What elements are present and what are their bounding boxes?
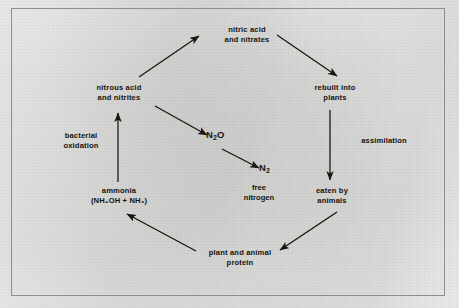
arrow-protein-to-ammonia [127, 214, 196, 251]
node-plant-and-animal-protein: plant and animal protein [189, 248, 291, 269]
node-protein-line2: protein [189, 258, 291, 268]
node-nitric-line2: and nitrates [205, 35, 289, 45]
caption-free-nitrogen-line1: free [226, 183, 292, 193]
species-dinitrogen: N2 [259, 162, 270, 173]
node-ammonia-line1: ammonia [73, 186, 165, 196]
node-eaten-line2: animals [296, 196, 368, 206]
process-bacterial-line2: oxidation [48, 141, 114, 151]
process-label-assimilation: assimilation [348, 136, 420, 146]
node-rebuilt-into-plants: rebuilt into plants [296, 83, 374, 104]
process-label-bacterial-oxidation: bacterial oxidation [48, 131, 114, 152]
node-eaten-line1: eaten by [296, 186, 368, 196]
species-n2o-tail: O [217, 129, 224, 140]
species-n2o-base: N [206, 129, 213, 140]
species-n2-base: N [259, 162, 266, 173]
node-nitric-line1: nitric acid [205, 25, 289, 35]
node-protein-line1: plant and animal [189, 248, 291, 258]
process-assimilation-line1: assimilation [348, 136, 420, 146]
node-nitrous-line2: and nitrites [75, 93, 163, 103]
caption-free-nitrogen: free nitrogen [226, 183, 292, 204]
node-ammonia-formula: (NH₄OH + NH₃) [73, 196, 165, 206]
arrow-nitrous-to-n2o [155, 106, 207, 135]
species-nitrous-oxide: N2O [206, 129, 225, 140]
node-nitrous-line1: nitrous acid [75, 83, 163, 93]
nitrogen-cycle-diagram: nitric acid and nitrates nitrous acid an… [0, 0, 459, 308]
arrow-n2o-to-n2 [222, 149, 259, 168]
node-ammonia: ammonia (NH₄OH + NH₃) [73, 186, 165, 207]
node-nitrous-acid-and-nitrites: nitrous acid and nitrites [75, 83, 163, 104]
arrow-eaten-to-protein [280, 212, 337, 250]
node-eaten-by-animals: eaten by animals [296, 186, 368, 207]
node-nitric-acid-and-nitrates: nitric acid and nitrates [205, 25, 289, 46]
process-bacterial-line1: bacterial [48, 131, 114, 141]
node-rebuilt-line1: rebuilt into [296, 83, 374, 93]
arrow-nitrous-to-nitric [139, 36, 199, 77]
node-rebuilt-line2: plants [296, 93, 374, 103]
species-n2-sub: 2 [266, 167, 270, 174]
caption-free-nitrogen-line2: nitrogen [226, 193, 292, 203]
